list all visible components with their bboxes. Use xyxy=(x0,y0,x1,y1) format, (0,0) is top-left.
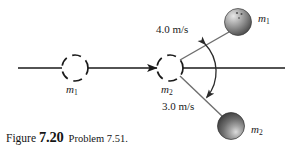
outgoing-upper-sphere xyxy=(225,9,252,36)
target-mass-label: m2 xyxy=(161,84,173,95)
lower-speed-label: 3.0 m/s xyxy=(162,101,194,112)
target-mass-circle xyxy=(157,55,183,81)
outgoing-upper-mass-label: m1 xyxy=(258,13,270,24)
caption-figure-number: 7.20 xyxy=(39,129,64,145)
figure-caption: Figure7.20Problem 7.51. xyxy=(6,128,128,146)
outgoing-upper-velocity-line xyxy=(180,32,229,60)
scattering-angle-arc xyxy=(205,44,216,97)
caption-figure-word: Figure xyxy=(6,132,36,144)
incoming-mass-label: m1 xyxy=(66,84,78,95)
physics-figure: m1 m2 m1 m2 4.0 m/s 3.0 m/s Figure7.20Pr… xyxy=(0,0,291,152)
outgoing-lower-mass-label: m2 xyxy=(251,124,263,135)
outgoing-lower-sphere xyxy=(218,113,245,140)
incoming-mass-circle xyxy=(62,55,88,81)
upper-speed-label: 4.0 m/s xyxy=(156,24,188,35)
caption-problem-text: Problem 7.51. xyxy=(69,133,128,144)
